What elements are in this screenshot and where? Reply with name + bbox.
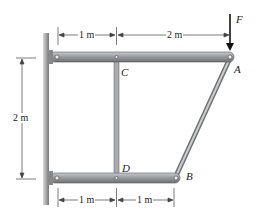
label-d: D [122,163,130,174]
frame-diagram [0,0,257,215]
label-c: C [121,67,128,78]
label-f: F [236,14,243,25]
dim-bottom-left: 1 m [78,195,95,205]
label-b: B [186,171,193,182]
dim-top-right: 2 m [166,30,183,40]
label-a: A [234,64,241,75]
dim-bottom-right: 1 m [136,195,153,205]
member-cd [114,60,119,176]
dim-left-vertical: 2 m [12,113,29,123]
member-top [50,52,234,62]
dim-top-left: 1 m [78,30,95,40]
